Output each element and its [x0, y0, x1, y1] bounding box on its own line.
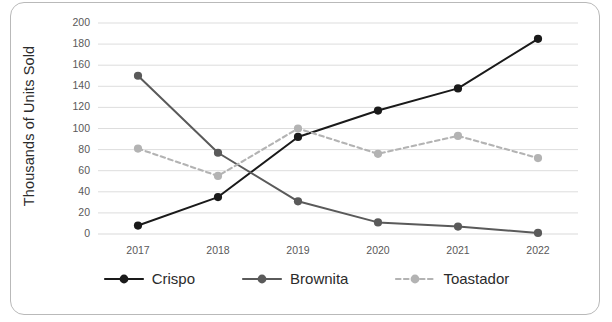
data-point-marker [534, 35, 542, 43]
data-point-marker [134, 72, 142, 80]
y-tick-label: 40 [50, 185, 90, 197]
legend-marker-icon [394, 272, 436, 286]
y-tick-label: 0 [50, 227, 90, 239]
data-point-marker [454, 84, 462, 92]
y-tick-label: 20 [50, 206, 90, 218]
x-tick-label: 2020 [343, 244, 413, 256]
x-tick-label: 2017 [103, 244, 173, 256]
data-point-marker [534, 154, 542, 162]
y-tick-label: 200 [50, 16, 90, 28]
series-line-toastador [138, 129, 538, 176]
chart-legend: CrispoBrownitaToastador [0, 270, 612, 287]
data-point-marker [134, 221, 142, 229]
x-tick-label: 2019 [263, 244, 333, 256]
legend-marker-icon [241, 272, 283, 286]
legend-label: Toastador [443, 270, 509, 287]
legend-item-toastador[interactable]: Toastador [394, 270, 509, 287]
legend-label: Brownita [290, 270, 348, 287]
data-point-marker [214, 172, 222, 180]
data-point-marker [294, 124, 302, 132]
legend-item-crispo[interactable]: Crispo [103, 270, 195, 287]
y-tick-label: 140 [50, 79, 90, 91]
legend-marker-icon [103, 272, 145, 286]
data-point-marker [374, 150, 382, 158]
line-chart: Thousands of Units Sold 2001801601401201… [0, 0, 612, 322]
data-point-marker [134, 144, 142, 152]
data-point-marker [374, 106, 382, 114]
data-point-marker [214, 193, 222, 201]
legend-item-brownita[interactable]: Brownita [241, 270, 348, 287]
data-point-marker [454, 223, 462, 231]
y-tick-label: 160 [50, 58, 90, 70]
data-point-marker [534, 229, 542, 237]
y-tick-label: 100 [50, 122, 90, 134]
data-point-marker [214, 149, 222, 157]
data-point-marker [374, 218, 382, 226]
data-point-marker [454, 132, 462, 140]
x-tick-label: 2021 [423, 244, 493, 256]
x-tick-label: 2022 [503, 244, 573, 256]
data-point-marker [294, 133, 302, 141]
data-point-marker [294, 197, 302, 205]
y-tick-label: 120 [50, 100, 90, 112]
series-line-brownita [138, 76, 538, 233]
legend-label: Crispo [152, 270, 195, 287]
x-tick-label: 2018 [183, 244, 253, 256]
y-tick-label: 80 [50, 143, 90, 155]
y-axis-title: Thousands of Units Sold [21, 31, 37, 221]
y-tick-label: 60 [50, 164, 90, 176]
y-tick-label: 180 [50, 37, 90, 49]
